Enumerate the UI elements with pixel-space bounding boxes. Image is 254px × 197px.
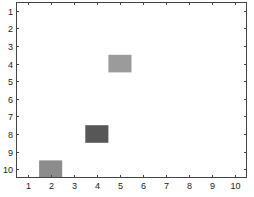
y-tick-label: 9 — [8, 148, 13, 158]
x-tick-label: 9 — [210, 181, 215, 191]
y-tick-label: 5 — [8, 77, 13, 87]
heatmap-chart: 12345678910 12345678910 — [0, 0, 254, 197]
y-tick-label: 7 — [8, 112, 13, 122]
heatmap-cell — [39, 160, 62, 178]
y-tick-label: 6 — [8, 95, 13, 105]
y-tick-label: 1 — [8, 7, 13, 17]
heatmap-cell — [85, 125, 108, 143]
x-tick-label: 1 — [26, 181, 31, 191]
x-tick-label: 8 — [187, 181, 192, 191]
heatmap-cells — [39, 55, 131, 178]
y-tick-label: 8 — [8, 130, 13, 140]
x-tick-label: 3 — [72, 181, 77, 191]
x-tick-label: 2 — [49, 181, 54, 191]
x-tick-label: 7 — [164, 181, 169, 191]
x-tick-label: 10 — [230, 181, 240, 191]
x-tick-label: 6 — [141, 181, 146, 191]
y-tick-label: 4 — [8, 60, 13, 70]
y-tick-label: 10 — [3, 165, 13, 175]
plot-frame — [17, 3, 247, 178]
x-tick-label: 4 — [95, 181, 100, 191]
y-axis: 12345678910 — [3, 7, 247, 175]
heatmap-cell — [108, 55, 131, 73]
y-tick-label: 3 — [8, 42, 13, 52]
y-tick-label: 2 — [8, 24, 13, 34]
x-tick-label: 5 — [118, 181, 123, 191]
